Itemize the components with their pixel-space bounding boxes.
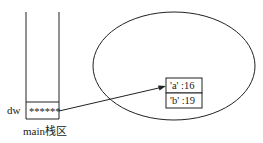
arrow-head-icon [158, 86, 166, 91]
dict-entry-b: 'b' :19 [170, 95, 195, 106]
dict-entry-a: 'a' :16 [170, 80, 195, 91]
memory-diagram: dw ****** main栈区 'a' :16 'b' :19 [0, 0, 263, 143]
variable-value: ****** [29, 106, 61, 117]
variable-name-label: dw [7, 104, 21, 116]
reference-arrow-line [59, 87, 163, 111]
stack-label: main栈区 [23, 124, 67, 137]
